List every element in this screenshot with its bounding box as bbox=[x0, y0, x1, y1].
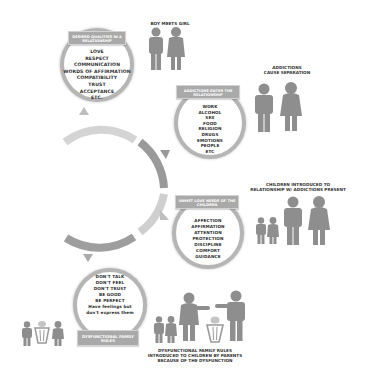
boy-figure-icon bbox=[147, 27, 165, 72]
child-figure-icon bbox=[255, 217, 267, 245]
trash-bin-icon bbox=[34, 320, 50, 344]
child-figure-icon bbox=[52, 321, 64, 347]
list-item: WORDS OF AFFIRMATION bbox=[60, 69, 134, 76]
stage1-list: LOVE RESPECT COMMUNICATION WORDS OF AFFI… bbox=[60, 49, 134, 102]
stage2-banner: ADDICTIONS ENTER THE RELATIONSHIP bbox=[176, 85, 240, 99]
stage3-banner: UNMET LOVE NEEDS OF THE CHILDREN bbox=[175, 195, 239, 209]
list-item: COMPATIBILITY bbox=[60, 75, 134, 82]
list-item: ETC bbox=[174, 149, 246, 155]
arrow-down-icon bbox=[83, 254, 93, 262]
stage2-list: WORK ALCOHOL SEX FOOD RELIGION DRUGS EMO… bbox=[174, 104, 246, 154]
stage3-caption: CHILDREN INTRODUCED TO RELATIONSHIP W/ A… bbox=[238, 182, 358, 192]
list-item: LOVE bbox=[60, 49, 134, 56]
separated-woman-figure-icon bbox=[279, 82, 303, 132]
list-item: ETC. bbox=[60, 95, 134, 102]
stage2-caption: ADDICTIONS CAUSE SEPARATION bbox=[252, 65, 322, 75]
stage4-banner: DYSFUNCTIONAL FAMILY RULES bbox=[77, 330, 139, 346]
list-item: don't express them bbox=[73, 310, 147, 316]
caption-line: BECAUSE OF THE DYSFUNCTION bbox=[140, 358, 250, 363]
caption-line: CAUSE SEPARATION bbox=[252, 70, 322, 75]
list-item: TRUST bbox=[60, 82, 134, 89]
stage3-list: AFFECTION AFFIRMATION ATTENTION PROTECTI… bbox=[172, 218, 244, 260]
separated-man-figure-icon bbox=[253, 83, 275, 133]
stage1-caption: BOY MEETS GIRL bbox=[140, 21, 200, 26]
child-figure-icon bbox=[165, 316, 177, 344]
stage1-banner: DESIRED QUALITIES IN A RELATIONSHIP bbox=[68, 31, 126, 45]
stage4-list: DON'T TALK DON'T FEEL DON'T TRUST BE GOO… bbox=[73, 274, 147, 316]
mother-figure-icon bbox=[307, 196, 331, 246]
arrow-up-icon bbox=[79, 107, 89, 115]
caption-line: RELATIONSHIP W/ ADDICTIONS PRESENT bbox=[238, 187, 358, 192]
girl-figure-icon bbox=[166, 27, 186, 72]
stage4-caption: DYSFUNCTIONAL FAMILY RULES INTRODUCED TO… bbox=[140, 348, 250, 364]
father-reaching-figure-icon bbox=[213, 290, 247, 342]
list-item: ACCEPTANCE bbox=[60, 89, 134, 96]
child-figure-icon bbox=[21, 321, 33, 347]
list-item: RESPECT bbox=[60, 56, 134, 63]
list-item: COMMUNICATION bbox=[60, 62, 134, 69]
child-figure-icon bbox=[153, 316, 165, 344]
list-item: GUIDANCE bbox=[172, 254, 244, 260]
child-figure-icon bbox=[267, 217, 279, 245]
father-figure-icon bbox=[282, 196, 304, 246]
arrow-right-icon bbox=[160, 210, 169, 220]
arrow-down-right-icon bbox=[160, 150, 170, 159]
